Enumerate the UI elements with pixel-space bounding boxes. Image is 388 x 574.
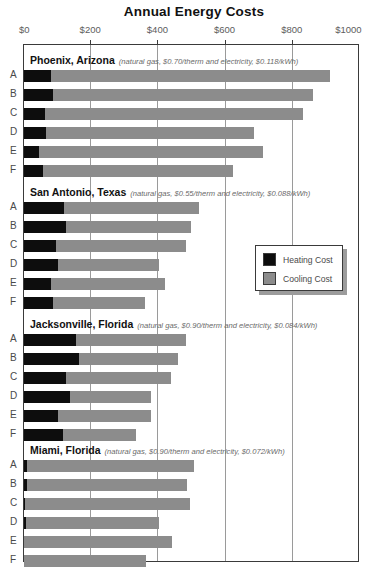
bar-segment-cooling [63,429,136,441]
bar-segment-heating [24,410,58,422]
legend-label-cooling: Cooling Cost [283,274,332,284]
group-city-label: Phoenix, Arizona [30,54,115,66]
bar-segment-heating [24,429,63,441]
bar-segment-cooling [45,108,303,120]
row-label-F: F [10,428,22,440]
row-label-D: D [10,516,22,528]
bar-segment-heating [24,202,64,214]
group-header: San Antonio, Texas(natural gas, $0.55/th… [30,185,310,200]
bar-segment-cooling [27,479,187,491]
row-label-B: B [10,220,22,232]
bar-segment-heating [24,278,51,290]
bar-row [24,127,360,139]
plot-area: Phoenix, Arizona(natural gas, $0.70/ther… [23,44,359,562]
bar-segment-cooling [51,70,330,82]
row-label-C: C [10,371,22,383]
group-rates-label: (natural gas, $0.90/therm and electricit… [137,321,317,330]
bar-segment-cooling [46,127,254,139]
row-label-F: F [10,296,22,308]
bar-row [24,297,360,309]
bar-row [24,202,360,214]
legend-swatch-cooling-icon [263,272,276,285]
bar-row [24,460,360,472]
bar-row [24,165,360,177]
bar-segment-cooling [53,297,145,309]
annual-energy-costs-chart: Annual Energy Costs $0$200$400$600$800$1… [0,0,388,574]
bar-row [24,429,360,441]
bar-segment-cooling [66,372,171,384]
bar-row [24,372,360,384]
bar-row [24,108,360,120]
group-rates-label: (natural gas, $0.55/therm and electricit… [130,189,310,198]
row-label-A: A [10,459,22,471]
bar-row [24,146,360,158]
row-label-E: E [10,145,22,157]
row-label-F: F [10,554,22,566]
group-city-label: Miami, Florida [30,444,101,456]
legend-item-cooling: Cooling Cost [263,271,332,286]
bar-segment-cooling [27,460,194,472]
bar-row [24,221,360,233]
bar-segment-cooling [39,146,263,158]
legend-item-heating: Heating Cost [263,252,333,267]
bar-segment-cooling [43,165,233,177]
row-label-A: A [10,201,22,213]
row-label-E: E [10,409,22,421]
group-rates-label: (natural gas, $0.70/therm and electricit… [119,57,299,66]
group-rates-label: (natural gas, $0.90/therm and electricit… [105,447,285,456]
bar-row [24,517,360,529]
x-axis-tick-200: $200 [80,24,101,35]
row-label-B: B [10,352,22,364]
bar-segment-cooling [58,259,159,271]
row-label-D: D [10,390,22,402]
chart-legend: Heating Cost Cooling Cost [255,245,343,291]
x-axis-tick-1000: $1000 [335,24,361,35]
bar-segment-heating [24,240,56,252]
row-label-A: A [10,69,22,81]
group-header: Jacksonville, Florida(natural gas, $0.90… [30,317,317,332]
legend-label-heating: Heating Cost [283,255,333,265]
bar-segment-cooling [64,202,199,214]
bar-segment-cooling [56,240,186,252]
bar-segment-heating [24,297,53,309]
row-label-B: B [10,478,22,490]
bar-segment-cooling [53,89,313,101]
bar-segment-cooling [25,498,190,510]
x-axis-tick-600: $600 [214,24,235,35]
row-label-C: C [10,497,22,509]
bar-segment-heating [24,221,66,233]
bar-segment-cooling [51,278,165,290]
bar-segment-heating [24,391,70,403]
bar-segment-heating [24,70,51,82]
row-label-E: E [10,277,22,289]
bar-row [24,410,360,422]
row-label-C: C [10,239,22,251]
bar-row [24,334,360,346]
x-axis-tickmark [225,40,226,44]
bar-segment-heating [24,127,46,139]
bar-row [24,498,360,510]
bar-row [24,353,360,365]
bar-row [24,479,360,491]
bar-row [24,536,360,548]
bar-segment-heating [24,165,43,177]
bar-segment-cooling [79,353,178,365]
bar-segment-cooling [24,536,172,548]
bar-segment-cooling [66,221,191,233]
x-axis-tick-labels: $0$200$400$600$800$1000 [0,24,388,38]
x-axis-tick-400: $400 [147,24,168,35]
group-city-label: San Antonio, Texas [30,186,126,198]
group-header: Phoenix, Arizona(natural gas, $0.70/ther… [30,53,298,68]
row-label-D: D [10,258,22,270]
bar-segment-cooling [70,391,151,403]
group-city-label: Jacksonville, Florida [30,318,133,330]
row-label-C: C [10,107,22,119]
bar-row [24,391,360,403]
x-axis-tickmark [292,40,293,44]
bar-segment-heating [24,259,58,271]
x-axis-tick-800: $800 [281,24,302,35]
bar-segment-heating [24,146,39,158]
bar-segment-heating [24,372,66,384]
bar-row [24,555,360,567]
x-axis-tick-0: $0 [19,24,30,35]
